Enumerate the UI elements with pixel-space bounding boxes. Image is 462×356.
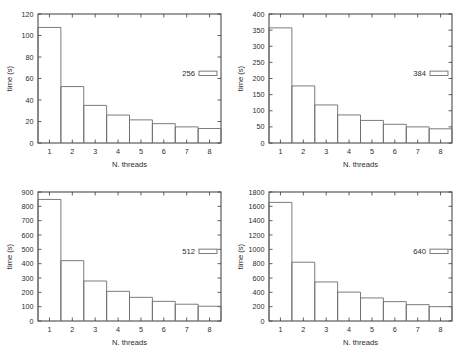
x-tick-label: 1 — [47, 325, 51, 334]
y-tick-label: 1200 — [249, 231, 265, 240]
x-tick-label: 8 — [439, 147, 443, 156]
y-tick-label: 200 — [253, 302, 265, 311]
x-tick-label: 5 — [139, 325, 143, 334]
x-axis-title: N. threads — [343, 338, 378, 347]
y-tick-label: 1600 — [249, 202, 265, 211]
bar — [292, 86, 315, 143]
y-tick-label: 250 — [253, 58, 265, 67]
x-tick-label: 3 — [324, 147, 328, 156]
x-tick-label: 7 — [185, 147, 189, 156]
y-tick-label: 0 — [30, 139, 34, 148]
y-tick-label: 40 — [26, 96, 34, 105]
y-tick-label: 700 — [22, 216, 34, 225]
x-tick-label: 4 — [347, 147, 351, 156]
x-tick-label: 2 — [70, 325, 74, 334]
legend-label: 256 — [182, 69, 195, 78]
y-axis-title: time (s) — [236, 243, 245, 269]
y-tick-label: 600 — [253, 274, 265, 283]
y-axis-title: time (s) — [5, 243, 14, 269]
x-tick-label: 2 — [70, 147, 74, 156]
y-tick-label: 200 — [22, 288, 34, 297]
y-tick-label: 600 — [22, 231, 34, 240]
bar — [107, 115, 130, 143]
chart-panel-640: 0200400600800100012001400160018001234567… — [231, 178, 462, 356]
x-tick-label: 1 — [278, 147, 282, 156]
x-tick-label: 6 — [393, 325, 397, 334]
x-tick-label: 2 — [301, 325, 305, 334]
bar — [269, 202, 292, 321]
chart-panel-384: 05010015020025030035040012345678N. threa… — [231, 0, 462, 178]
y-tick-label: 800 — [22, 202, 34, 211]
figure-multi-panel-bar-charts: 02040608010012012345678N. threadstime (s… — [0, 0, 462, 356]
x-tick-label: 7 — [416, 325, 420, 334]
y-axis-title: time (s) — [236, 65, 245, 91]
x-tick-label: 4 — [347, 325, 351, 334]
bar — [38, 199, 61, 321]
x-tick-label: 5 — [370, 147, 374, 156]
bar — [315, 105, 338, 143]
legend-swatch-icon — [199, 71, 217, 75]
legend-label: 384 — [413, 69, 426, 78]
x-tick-label: 2 — [301, 147, 305, 156]
bar — [38, 27, 61, 143]
y-tick-label: 0 — [261, 317, 265, 326]
y-tick-label: 1400 — [249, 216, 265, 225]
chart-panel-512: 010020030040050060070080090012345678N. t… — [0, 178, 231, 356]
x-tick-label: 1 — [47, 147, 51, 156]
x-tick-label: 6 — [162, 147, 166, 156]
y-tick-label: 100 — [253, 106, 265, 115]
bar — [84, 281, 107, 321]
x-axis-title: N. threads — [112, 160, 147, 169]
x-tick-label: 6 — [393, 147, 397, 156]
legend-swatch-icon — [430, 71, 448, 75]
bar — [292, 262, 315, 321]
y-tick-label: 500 — [22, 245, 34, 254]
y-tick-label: 20 — [26, 117, 34, 126]
legend-swatch-icon — [430, 249, 448, 253]
y-tick-label: 120 — [22, 10, 34, 19]
y-axis-title: time (s) — [5, 65, 14, 91]
y-tick-label: 1800 — [249, 188, 265, 197]
y-tick-label: 800 — [253, 259, 265, 268]
y-tick-label: 50 — [257, 122, 265, 131]
y-tick-label: 200 — [253, 74, 265, 83]
y-tick-label: 1000 — [249, 245, 265, 254]
x-tick-label: 4 — [116, 325, 120, 334]
bar — [315, 282, 338, 321]
bar — [130, 297, 153, 321]
y-tick-label: 80 — [26, 53, 34, 62]
y-tick-label: 300 — [253, 42, 265, 51]
x-tick-label: 5 — [370, 325, 374, 334]
y-tick-label: 400 — [253, 288, 265, 297]
x-tick-label: 3 — [324, 325, 328, 334]
x-axis-title: N. threads — [343, 160, 378, 169]
chart-panel-256: 02040608010012012345678N. threadstime (s… — [0, 0, 231, 178]
y-tick-label: 100 — [22, 31, 34, 40]
x-tick-label: 7 — [185, 325, 189, 334]
y-tick-label: 300 — [22, 274, 34, 283]
y-tick-label: 60 — [26, 74, 34, 83]
x-tick-label: 5 — [139, 147, 143, 156]
y-tick-label: 0 — [261, 139, 265, 148]
y-tick-label: 150 — [253, 90, 265, 99]
x-tick-label: 7 — [416, 147, 420, 156]
x-tick-label: 6 — [162, 325, 166, 334]
x-tick-label: 8 — [208, 325, 212, 334]
y-tick-label: 350 — [253, 26, 265, 35]
legend-label: 640 — [413, 247, 426, 256]
bar — [61, 261, 84, 321]
bar — [338, 292, 361, 321]
y-tick-label: 900 — [22, 188, 34, 197]
bar — [338, 115, 361, 143]
x-tick-label: 3 — [93, 147, 97, 156]
bar — [107, 291, 130, 321]
bar — [84, 105, 107, 143]
y-tick-label: 0 — [30, 317, 34, 326]
y-tick-label: 400 — [22, 259, 34, 268]
x-tick-label: 1 — [278, 325, 282, 334]
legend-label: 512 — [182, 247, 195, 256]
legend-swatch-icon — [199, 249, 217, 253]
x-tick-label: 8 — [208, 147, 212, 156]
x-tick-label: 4 — [116, 147, 120, 156]
y-tick-label: 400 — [253, 10, 265, 19]
